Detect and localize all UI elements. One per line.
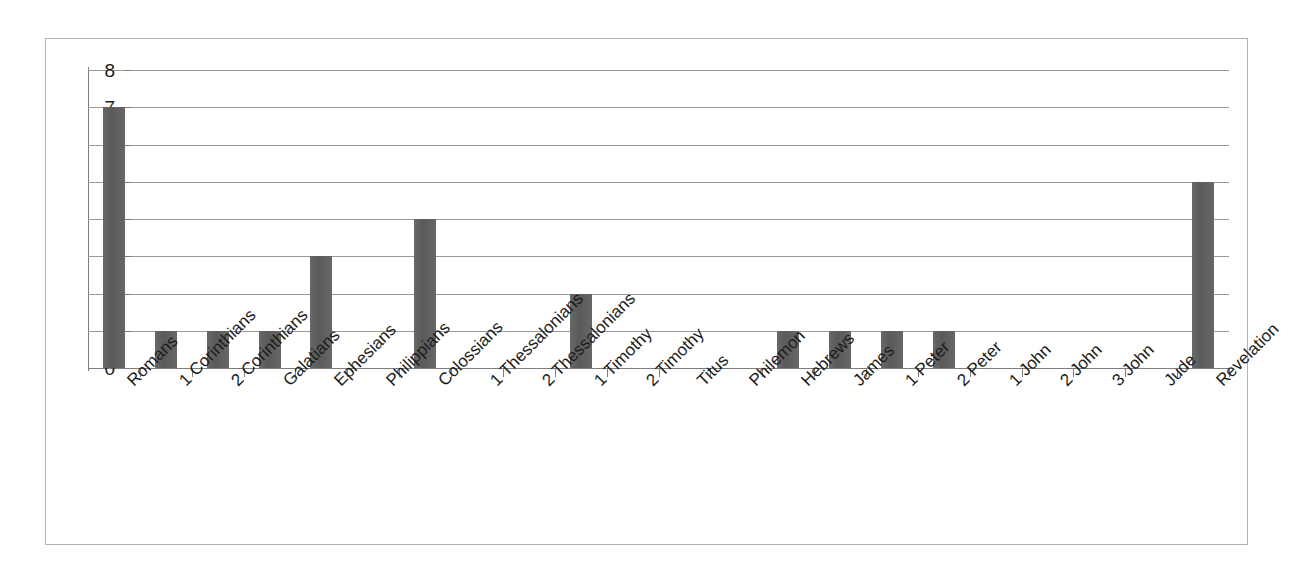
x-axis-label-2-corinthians: 2 Corinthians bbox=[228, 377, 240, 389]
x-axis-label-titus: Titus bbox=[694, 377, 706, 389]
x-axis-label-ephesians: Ephesians bbox=[331, 377, 343, 389]
x-axis-label-1-corinthians: 1 Corinthians bbox=[176, 377, 188, 389]
gridline-4 bbox=[88, 219, 1229, 220]
y-tick-mark-5: 5 bbox=[124, 182, 131, 183]
x-axis-label-galatians: Galatians bbox=[280, 377, 292, 389]
x-axis-label-2-john: 2 John bbox=[1057, 377, 1069, 389]
x-axis-labels-group: Romans1 Corinthians2 CorinthiansGalatian… bbox=[88, 377, 1229, 537]
y-tick-mark-4: 4 bbox=[124, 219, 131, 220]
x-axis-label-philippians: Philippians bbox=[383, 377, 395, 389]
plot-area: 012345678 bbox=[88, 70, 1229, 368]
y-tick-mark-1: 1 bbox=[124, 331, 131, 332]
gridline-6 bbox=[88, 145, 1229, 146]
x-axis-label-colossians: Colossians bbox=[435, 377, 447, 389]
y-tick-mark-6: 6 bbox=[124, 145, 131, 146]
gridline-2 bbox=[88, 294, 1229, 295]
x-axis-label-1-peter: 1 Peter bbox=[902, 377, 914, 389]
y-tick-mark-7: 7 bbox=[124, 107, 131, 108]
chart-page: 012345678 Romans1 Corinthians2 Corinthia… bbox=[0, 0, 1291, 574]
x-axis-label-1-thessalonians: 1 Thessalonians bbox=[487, 377, 499, 389]
x-axis-label-3-john: 3 John bbox=[1109, 377, 1121, 389]
y-tick-mark-3: 3 bbox=[124, 256, 131, 257]
gridline-3 bbox=[88, 256, 1229, 257]
y-tick-mark-2: 2 bbox=[124, 294, 131, 295]
x-axis-label-1-john: 1 John bbox=[1006, 377, 1018, 389]
y-tick-mark-8: 8 bbox=[124, 70, 131, 71]
x-axis-label-jude: Jude bbox=[1161, 377, 1173, 389]
x-axis-label-james: James bbox=[850, 377, 862, 389]
y-tick-label-8: 8 bbox=[104, 61, 115, 80]
x-axis-label-philemon: Philemon bbox=[746, 377, 758, 389]
bar-revelation bbox=[1192, 182, 1214, 368]
x-axis-label-revelation: Revelation bbox=[1213, 377, 1225, 389]
gridline-7 bbox=[88, 107, 1229, 108]
bar-romans bbox=[103, 107, 125, 368]
gridline-8 bbox=[88, 70, 1229, 71]
chart-frame: 012345678 Romans1 Corinthians2 Corinthia… bbox=[45, 38, 1248, 545]
x-axis-label-hebrews: Hebrews bbox=[798, 377, 810, 389]
x-axis-label-1-timothy: 1 Timothy bbox=[591, 377, 603, 389]
x-axis-label-2-timothy: 2 Timothy bbox=[643, 377, 655, 389]
x-axis-label-2-thessalonians: 2 Thessalonians bbox=[539, 377, 551, 389]
gridline-5 bbox=[88, 182, 1229, 183]
x-axis-label-romans: Romans bbox=[124, 377, 136, 389]
x-axis-label-2-peter: 2 Peter bbox=[954, 377, 966, 389]
